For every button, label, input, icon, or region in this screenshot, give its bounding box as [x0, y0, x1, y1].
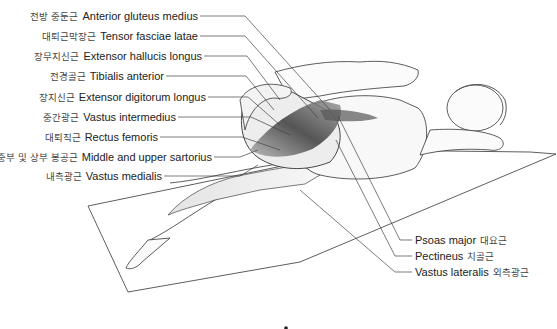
- label-ko: 중간광근: [43, 112, 79, 123]
- label-en: Middle and upper sartorius: [82, 151, 212, 163]
- label-ko: 외측광근: [493, 267, 529, 278]
- label-extensor-hallucis-longus: 장무지신근Extensor hallucis longus: [34, 49, 202, 64]
- label-ko: 장무지신근: [34, 51, 79, 62]
- label-vastus-lateralis: Vastus lateralis외측광근: [415, 265, 529, 280]
- label-en: Psoas major: [415, 234, 476, 246]
- label-en: Tibialis anterior: [90, 70, 164, 82]
- label-ko: 치골근: [467, 251, 494, 262]
- label-en: Tensor fasciae latae: [100, 30, 198, 42]
- label-extensor-digitorum-longus: 장지신근Extensor digitorum longus: [39, 90, 206, 105]
- label-en: Extensor digitorum longus: [79, 91, 206, 103]
- label-pectineus: Pectineus치골근: [415, 249, 494, 264]
- label-ko: 대퇴직근: [45, 132, 81, 143]
- label-ko: 중부 및 상부 봉공근: [0, 152, 78, 163]
- label-en: Pectineus: [415, 250, 463, 262]
- label-tibialis-anterior: 전경골근Tibialis anterior: [50, 69, 164, 84]
- label-en: Rectus femoris: [85, 131, 158, 143]
- label-ko: 장지신근: [39, 92, 75, 103]
- label-middle-upper-sartorius: 중부 및 상부 봉공근Middle and upper sartorius: [0, 150, 212, 165]
- label-psoas-major: Psoas major대요근: [415, 233, 507, 248]
- label-anterior-gluteus-medius: 전방 중둔근Anterior gluteus medius: [30, 9, 198, 24]
- label-ko: 내측광근: [46, 171, 82, 182]
- label-ko: 대요근: [480, 235, 507, 246]
- label-ko: 전방 중둔근: [30, 11, 78, 22]
- label-en: Vastus medialis: [86, 170, 162, 182]
- label-en: Anterior gluteus medius: [82, 10, 198, 22]
- label-en: Vastus intermedius: [83, 111, 176, 123]
- lower-leg: [168, 165, 320, 215]
- foot: [126, 238, 170, 269]
- anatomy-figure: 전방 중둔근Anterior gluteus medius 대퇴근막장근Tens…: [0, 0, 557, 329]
- label-rectus-femoris: 대퇴직근Rectus femoris: [45, 130, 158, 145]
- label-vastus-intermedius: 중간광근Vastus intermedius: [43, 110, 176, 125]
- label-ko: 대퇴근막장근: [42, 31, 96, 42]
- label-vastus-medialis: 내측광근Vastus medialis: [46, 169, 162, 184]
- label-ko: 전경골근: [50, 71, 86, 82]
- label-en: Vastus lateralis: [415, 266, 489, 278]
- label-en: Extensor hallucis longus: [83, 50, 202, 62]
- label-tensor-fasciae-latae: 대퇴근막장근Tensor fasciae latae: [42, 29, 198, 44]
